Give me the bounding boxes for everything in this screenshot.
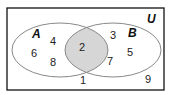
element-4: 4 bbox=[50, 35, 56, 47]
element-1: 1 bbox=[80, 74, 86, 86]
element-3: 3 bbox=[110, 29, 116, 41]
element-8: 8 bbox=[50, 56, 56, 68]
element-5: 5 bbox=[127, 46, 133, 58]
element-2: 2 bbox=[79, 41, 85, 53]
element-9: 9 bbox=[145, 73, 151, 85]
element-7: 7 bbox=[107, 55, 113, 67]
venn-diagram: U A B 4 6 8 2 3 5 7 1 9 bbox=[0, 0, 170, 95]
set-a-label: A bbox=[31, 27, 41, 41]
set-b-label: B bbox=[128, 26, 137, 40]
element-6: 6 bbox=[31, 47, 37, 59]
universe-label: U bbox=[147, 12, 156, 26]
